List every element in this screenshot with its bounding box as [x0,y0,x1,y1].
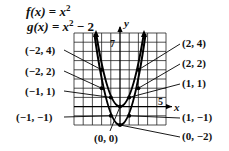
label-neg1-1: (−1, 1) [25,86,55,97]
y-axis-arrow-icon [117,26,122,32]
x-axis-arrow-icon [166,104,172,109]
parabola-figure: f(x) = x2 g(x) = x2 − 2 [0,0,229,151]
label-2-4: (2, 4) [182,38,206,49]
label-neg1-neg1: (−1, −1) [16,112,52,123]
y-axis-label: y [124,17,129,29]
curve-f-right-arrow-icon [141,30,147,37]
label-neg2-2: (−2, 2) [25,66,55,77]
y-tick-label: 7 [110,38,115,49]
label-1-neg1: (1, −1) [182,112,212,123]
label-neg2-4: (−2, 4) [25,45,55,56]
x-axis-label: x [174,101,180,113]
x-tick-label: 5 [158,96,163,107]
label-2-2: (2, 2) [182,58,206,69]
label-1-1: (1, 1) [182,78,206,89]
label-0-0: (0, 0) [94,133,118,144]
axes [74,27,172,125]
label-0-neg2: (0, −2) [182,131,212,142]
leader-lines [64,44,180,137]
curve-f-left-arrow-icon [93,30,99,37]
